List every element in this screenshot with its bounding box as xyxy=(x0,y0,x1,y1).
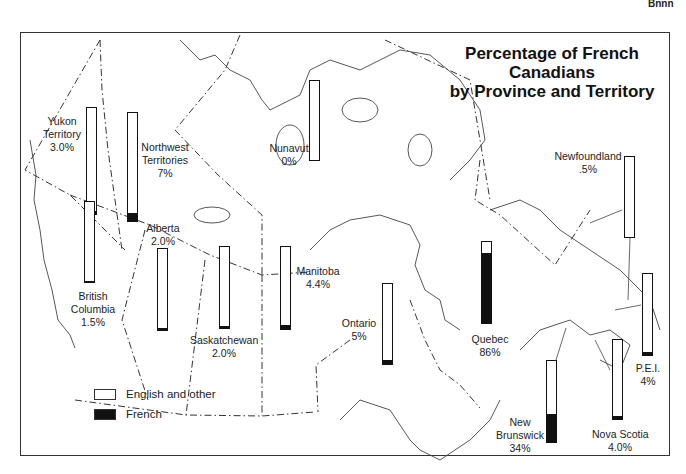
legend-swatch-french xyxy=(94,409,116,420)
legend-label-english: English and other xyxy=(126,388,216,400)
legend-item-french: French xyxy=(94,404,216,424)
legend-swatch-english xyxy=(94,389,116,400)
legend-item-english: English and other xyxy=(94,384,216,404)
legend: English and other French xyxy=(94,384,216,424)
legend-label-french: French xyxy=(126,408,162,420)
